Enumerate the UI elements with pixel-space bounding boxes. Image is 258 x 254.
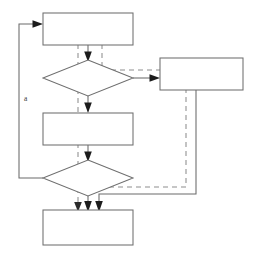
node-n3[interactable] bbox=[43, 113, 133, 145]
edge-label-a: a bbox=[24, 94, 28, 103]
arrowhead-n4-n1-feedback bbox=[33, 20, 44, 28]
node-n6-rect[interactable] bbox=[160, 58, 243, 90]
node-n2-diamond[interactable] bbox=[43, 60, 133, 96]
edge-n4-n1-feedback bbox=[19, 24, 43, 178]
node-n1[interactable] bbox=[43, 13, 133, 45]
flowchart-diagram: a bbox=[0, 0, 258, 254]
node-n6[interactable] bbox=[160, 58, 243, 90]
node-n5-rect[interactable] bbox=[43, 210, 133, 245]
edge-n6-n5 bbox=[99, 90, 196, 205]
arrowhead-n2-n6 bbox=[150, 74, 161, 82]
node-n4[interactable] bbox=[43, 160, 133, 196]
node-n5[interactable] bbox=[43, 210, 133, 245]
node-n3-rect[interactable] bbox=[43, 113, 133, 145]
node-n1-rect[interactable] bbox=[43, 13, 133, 45]
flowchart-canvas: a bbox=[0, 0, 258, 254]
node-n4-diamond[interactable] bbox=[43, 160, 133, 196]
node-n2[interactable] bbox=[43, 60, 133, 96]
arrowhead-n2-n3 bbox=[84, 103, 92, 114]
